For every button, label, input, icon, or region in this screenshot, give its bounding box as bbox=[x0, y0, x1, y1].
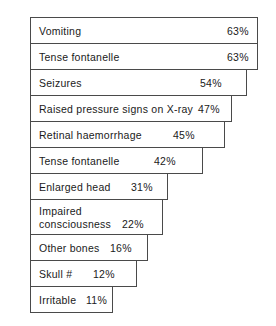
bar-value: 45% bbox=[173, 128, 195, 141]
bar-label: Raised pressure signs on X-ray bbox=[39, 102, 193, 115]
bar-value: 31% bbox=[131, 180, 153, 193]
bar-label: Enlarged head bbox=[39, 180, 111, 193]
bar-label: Impaired consciousness bbox=[39, 205, 111, 230]
table-row[interactable]: Vomiting 63% bbox=[30, 17, 258, 44]
table-row[interactable]: Skull # 12% bbox=[30, 260, 137, 287]
table-row[interactable]: Raised pressure signs on X-ray 47% bbox=[30, 95, 232, 122]
bar-label: Other bones bbox=[39, 241, 100, 254]
table-row[interactable]: Seizures 54% bbox=[30, 69, 247, 96]
bar-label: Irritable bbox=[39, 293, 76, 306]
bar-label: Tense fontanelle bbox=[39, 154, 119, 167]
table-row[interactable]: Enlarged head 31% bbox=[30, 173, 168, 200]
bar-value: 12% bbox=[93, 267, 115, 280]
bar-label: Tense fontanelle bbox=[39, 50, 119, 63]
chart-plot-area: Vomiting 63% Tense fontanelle 63% Seizur… bbox=[30, 17, 262, 309]
bar-value: 16% bbox=[110, 241, 132, 254]
bar-label: Seizures bbox=[39, 76, 82, 89]
table-row[interactable]: Impaired consciousness 22% bbox=[30, 199, 163, 235]
bar-value: 54% bbox=[200, 76, 222, 89]
table-row[interactable]: Tense fontanelle 42% bbox=[30, 147, 203, 174]
bar-value: 22% bbox=[122, 218, 144, 231]
bar-value: 63% bbox=[227, 50, 249, 63]
table-row[interactable]: Irritable 11% bbox=[30, 286, 113, 313]
bar-label: Retinal haemorrhage bbox=[39, 128, 142, 141]
bar-value: 11% bbox=[86, 293, 107, 306]
stepped-bar-chart: Vomiting 63% Tense fontanelle 63% Seizur… bbox=[0, 0, 276, 326]
table-row[interactable]: Tense fontanelle 63% bbox=[30, 43, 258, 70]
table-row[interactable]: Other bones 16% bbox=[30, 234, 148, 261]
bar-value: 47% bbox=[198, 102, 220, 115]
bar-value: 63% bbox=[227, 24, 249, 37]
table-row[interactable]: Retinal haemorrhage 45% bbox=[30, 121, 225, 148]
bar-label: Skull # bbox=[39, 267, 72, 280]
bar-value: 42% bbox=[154, 154, 176, 167]
bar-label: Vomiting bbox=[39, 24, 81, 37]
